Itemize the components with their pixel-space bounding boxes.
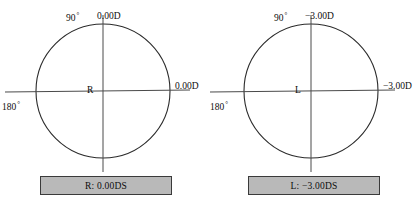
axis-90-value: 90 — [66, 13, 76, 23]
axis-label-180-left: 180° — [210, 101, 228, 113]
eye-center-label-left: L — [295, 86, 301, 96]
degree-symbol-icon: ° — [76, 11, 80, 19]
axis-label-180-right: 180° — [2, 101, 20, 113]
eye-center-label-right: R — [87, 86, 93, 96]
axis-90-value: 90 — [274, 13, 284, 23]
axis-180-value: 180 — [2, 102, 16, 112]
axis-label-90-left: 90° — [274, 12, 287, 24]
power-label-horizontal-right: 0.00D — [175, 82, 199, 92]
degree-symbol-icon: ° — [16, 100, 20, 108]
power-label-vertical-right: 0.00D — [97, 12, 121, 22]
axis-180-value: 180 — [210, 102, 224, 112]
horizontal-meridian-line — [210, 90, 395, 92]
horizontal-meridian-line — [5, 90, 190, 92]
degree-symbol-icon: ° — [284, 11, 288, 19]
power-label-horizontal-left: −3.00D — [383, 82, 412, 92]
optical-cross-left-eye: 90° −3.00D 180° −3.00D L L: −3.00DS — [208, 0, 415, 211]
result-box-right-eye: R: 0.00DS — [40, 176, 172, 195]
power-label-vertical-left: −3.00D — [305, 12, 334, 22]
optical-cross-right-eye: 90° 0.00D 180° 0.00D R R: 0.00DS — [0, 0, 207, 211]
axis-label-90-right: 90° — [66, 12, 79, 24]
degree-symbol-icon: ° — [224, 100, 228, 108]
result-box-left-eye: L: −3.00DS — [248, 176, 380, 195]
